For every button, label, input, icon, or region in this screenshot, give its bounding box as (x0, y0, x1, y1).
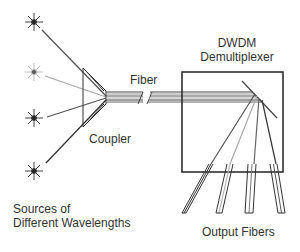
dwdm-label-line1: DWDM (197, 36, 277, 50)
coupler-shape (83, 68, 106, 127)
fiber-bundle-right (148, 92, 263, 102)
dispersed-rays (211, 94, 276, 164)
fiber-bundle-left (106, 92, 143, 102)
source-1-icon (25, 13, 43, 31)
sources-label-line1: Sources of (13, 202, 130, 216)
dwdm-label: DWDM Demultiplexer (197, 36, 277, 64)
dwdm-label-line2: Demultiplexer (197, 50, 277, 64)
output-fibers-label: Output Fibers (202, 225, 275, 239)
sources-label-line2: Different Wavelengths (13, 216, 130, 230)
sources-label: Sources of Different Wavelengths (13, 202, 130, 230)
coupler-label: Coupler (89, 132, 131, 146)
fiber-label: Fiber (130, 73, 157, 87)
source-4-icon (25, 162, 43, 180)
source-3-icon (25, 109, 43, 127)
source-2-icon (25, 63, 43, 81)
